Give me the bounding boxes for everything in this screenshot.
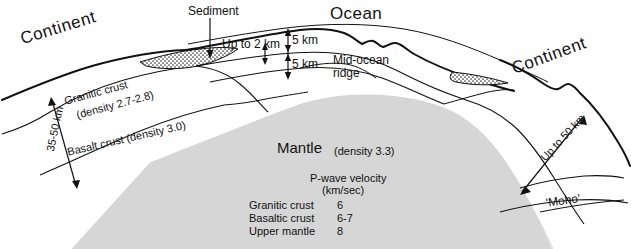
label-ocean: Ocean bbox=[330, 4, 382, 23]
label-sediment: Sediment bbox=[188, 5, 239, 18]
pwave-velocity-2: 8 bbox=[337, 225, 367, 238]
continent-left-flank-inner bbox=[224, 92, 308, 105]
pwave-layer-2: Upper mantle bbox=[249, 225, 337, 238]
label-mantle-density: (density 3.3) bbox=[334, 145, 395, 157]
label-5km-upper: 5 km bbox=[292, 34, 318, 47]
table-row: Basaltic crust 6-7 bbox=[249, 212, 367, 225]
pwave-layer-0: Granitic crust bbox=[249, 199, 337, 212]
sediment-wedge-right bbox=[450, 72, 508, 85]
label-up-to-2km: Up to 2 km bbox=[222, 38, 280, 51]
pwave-velocity-0: 6 bbox=[337, 199, 367, 212]
table-row: Upper mantle 8 bbox=[249, 225, 367, 238]
pwave-heading-line1: P-wave velocity bbox=[310, 172, 386, 184]
pwave-heading-line2: (km/sec) bbox=[322, 184, 364, 196]
pwave-velocity-table: Granitic crust 6 Basaltic crust 6-7 Uppe… bbox=[249, 199, 367, 238]
pwave-layer-1: Basaltic crust bbox=[249, 212, 337, 225]
label-mantle: Mantle bbox=[277, 140, 322, 157]
label-mid-ocean-ridge: Mid-ocean ridge bbox=[333, 54, 389, 81]
pwave-velocity-1: 6-7 bbox=[337, 212, 367, 225]
ocean-to-continent-transition bbox=[444, 90, 514, 104]
continent-right-moho bbox=[520, 176, 624, 188]
label-5km-lower: 5 km bbox=[292, 58, 318, 71]
label-mid-ocean-ridge-line1: Mid-ocean bbox=[333, 53, 389, 67]
table-row: Granitic crust 6 bbox=[249, 199, 367, 212]
geology-cross-section-diagram: Continent Continent Ocean Sediment Up to… bbox=[0, 0, 631, 249]
label-mid-ocean-ridge-line2: ridge bbox=[333, 66, 360, 80]
